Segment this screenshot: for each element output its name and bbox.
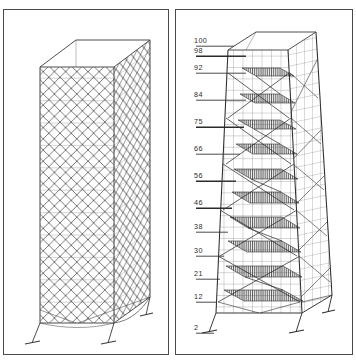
level-tick-label: 98 (194, 46, 203, 55)
level-tick-label: 46 (194, 198, 203, 207)
level-tick-label: 84 (194, 90, 203, 99)
level-tick-label: 38 (194, 222, 203, 231)
level-tick-label: 66 (194, 144, 203, 153)
level-tick: 100 (194, 36, 240, 46)
panel-left-uniform-tower (3, 9, 169, 355)
level-tick-label: 75 (194, 117, 203, 126)
uniform-tower-drawing (4, 10, 168, 354)
level-tick-label: 2 (194, 323, 198, 332)
figure-root: 10098928475665646383021122 (0, 0, 356, 362)
side-face-bracing (108, 23, 158, 331)
tapered-tower-drawing: 10098928475665646383021122 (176, 10, 352, 354)
level-tick-label: 100 (194, 36, 207, 45)
level-tick-label: 30 (194, 246, 203, 255)
tower-body (25, 23, 158, 344)
level-tick: 21 (194, 269, 220, 279)
level-tick-label: 21 (194, 269, 203, 278)
level-tick-label: 56 (194, 171, 203, 180)
tapered-tower-body (202, 15, 342, 333)
level-tick: 12 (194, 292, 216, 302)
level-tick-label: 12 (194, 292, 203, 301)
panel-right-tapered-tower: 10098928475665646383021122 (175, 9, 353, 355)
front-face-bracing (34, 62, 122, 330)
level-tick-label: 92 (194, 63, 203, 72)
